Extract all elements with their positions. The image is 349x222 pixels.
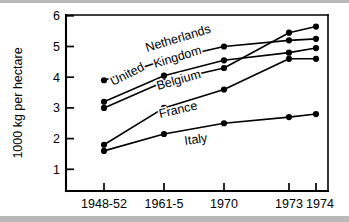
- data-point: [221, 120, 227, 126]
- x-tick-label-1974: 1974: [306, 197, 334, 211]
- y-tick-label-2: 2: [53, 132, 60, 146]
- data-point: [313, 111, 319, 117]
- data-point: [286, 56, 292, 62]
- data-point: [313, 56, 319, 62]
- x-tick-marks: [104, 183, 316, 191]
- series-label-france: France: [158, 99, 199, 121]
- series-line: [104, 114, 316, 151]
- y-tick-label-3: 3: [53, 101, 60, 115]
- data-point: [313, 23, 319, 29]
- data-point: [161, 131, 167, 137]
- data-point: [221, 65, 227, 71]
- data-point: [286, 50, 292, 56]
- y-tick-label-5: 5: [53, 40, 60, 54]
- data-point: [221, 86, 227, 92]
- data-point: [313, 36, 319, 42]
- y-tick-label-1: 1: [53, 163, 60, 177]
- figure: 1 2 3 4 5 6 1000 kg per hectare 1948-52 …: [0, 0, 349, 222]
- series-italy: [101, 111, 319, 154]
- x-tick-label-1970: 1970: [210, 197, 238, 211]
- series-labels: Netherlands United Kingdom Belgium Franc…: [108, 22, 212, 148]
- line-chart: 1 2 3 4 5 6 1000 kg per hectare 1948-52 …: [0, 0, 349, 222]
- data-point: [101, 99, 107, 105]
- data-point: [101, 148, 107, 154]
- y-tick-marks: [66, 16, 74, 170]
- data-point: [286, 30, 292, 36]
- series-label-belgium: Belgium: [155, 67, 202, 93]
- x-tick-label-1961-5: 1961-5: [145, 197, 184, 211]
- y-tick-label-6: 6: [53, 9, 60, 23]
- data-point: [286, 37, 292, 43]
- y-tick-label-4: 4: [53, 71, 60, 85]
- data-point: [313, 45, 319, 51]
- data-point: [101, 77, 107, 83]
- data-point: [101, 105, 107, 111]
- data-point: [101, 142, 107, 148]
- data-point: [221, 57, 227, 63]
- x-tick-label-1973: 1973: [275, 197, 303, 211]
- data-point: [221, 43, 227, 49]
- x-tick-label-1948-52: 1948-52: [81, 197, 127, 211]
- series-label-united: United: [108, 60, 147, 89]
- data-point: [286, 114, 292, 120]
- series-layer: [101, 23, 319, 154]
- series-label-italy: Italy: [183, 131, 208, 148]
- y-axis-title: 1000 kg per hectare: [11, 47, 25, 158]
